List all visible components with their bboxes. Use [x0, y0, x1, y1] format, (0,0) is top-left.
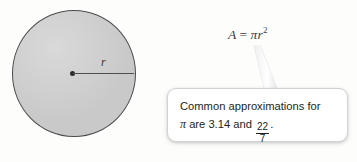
callout-line-2: π are 3.14 and 22 7 .	[180, 115, 339, 142]
fraction-numerator: 22	[256, 122, 269, 132]
circle-area-figure: r A=πr2 Common approximations for π are …	[0, 0, 357, 162]
area-formula: A=πr2	[228, 25, 268, 43]
formula-pi-symbol: π	[250, 27, 257, 42]
fraction-denominator: 7	[260, 134, 266, 144]
callout-tail-icon	[234, 45, 278, 91]
formula-equals-sign: =	[237, 27, 251, 42]
callout-text-block: Common approximations for π are 3.14 and…	[180, 97, 339, 142]
callout-period: .	[270, 115, 273, 133]
formula-area-variable: A	[228, 27, 237, 42]
formula-exponent: 2	[263, 25, 268, 35]
radius-label: r	[101, 55, 106, 70]
twenty-two-sevenths-fraction: 22 7	[256, 122, 269, 144]
radius-line	[73, 73, 134, 74]
pi-approximation-callout: Common approximations for π are 3.14 and…	[167, 88, 348, 142]
callout-space	[252, 115, 255, 133]
circle-diagram: r	[0, 0, 160, 162]
callout-approximation-text: are 3.14 and	[189, 115, 252, 133]
callout-line-1: Common approximations for	[180, 97, 339, 115]
